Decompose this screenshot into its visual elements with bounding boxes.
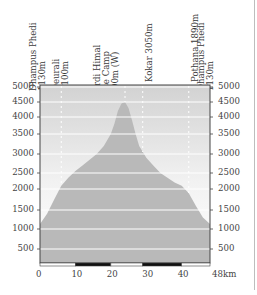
- y-tick-label-right: 3500: [218, 128, 240, 138]
- scale-bar-segment: [75, 263, 110, 266]
- y-tick-label-left: 1500: [12, 204, 34, 214]
- scale-bar-segment: [182, 263, 210, 266]
- y-tick-label-right: 5000: [218, 81, 240, 91]
- x-tick-label: 0: [36, 269, 41, 279]
- y-tick-label-left: 5000: [12, 81, 34, 91]
- y-tick-label-left: 4000: [12, 111, 34, 121]
- y-tick-label-left: 500: [18, 243, 34, 253]
- x-tick-label: 10: [71, 269, 82, 279]
- scale-bar-segment: [40, 263, 75, 266]
- y-tick-label-right: 3000: [218, 148, 240, 158]
- x-tick-label: 48km: [212, 269, 236, 279]
- y-tick-label-right: 4500: [218, 96, 240, 106]
- y-tick-label-right: 1500: [218, 204, 240, 214]
- y-tick-label-left: 1000: [12, 223, 34, 233]
- y-tick-label-left: 2500: [12, 167, 34, 177]
- scale-bar-segment: [111, 263, 143, 266]
- y-tick-label-left: 2000: [12, 183, 34, 193]
- scale-bar-segment: [143, 263, 182, 266]
- y-tick-label-right: 4000: [218, 111, 240, 121]
- x-tick-label: 30: [142, 269, 153, 279]
- y-tick-label-right: 500: [218, 243, 234, 253]
- y-tick-label-left: 3500: [12, 128, 34, 138]
- distance-scale-bar: [40, 263, 210, 266]
- y-tick-label-right: 1000: [218, 223, 240, 233]
- y-tick-label-left: 4500: [12, 96, 34, 106]
- y-tick-label-right: 2000: [218, 183, 240, 193]
- y-tick-label-right: 2500: [218, 167, 240, 177]
- x-tick-label: 40: [178, 269, 189, 279]
- x-tick-label: 20: [107, 269, 118, 279]
- y-tick-label-left: 3000: [12, 148, 34, 158]
